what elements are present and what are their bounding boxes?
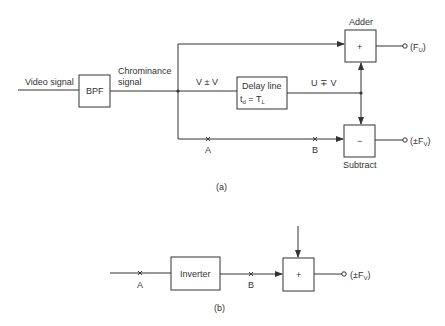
adder-sign: + (357, 42, 362, 52)
subtract-sign: − (357, 136, 362, 146)
bpf-label: BPF (86, 86, 104, 96)
v-pm-v-label: V ± V (196, 77, 218, 87)
caption-b: (b) (214, 303, 225, 313)
delay-time-label: td = TL (240, 94, 265, 105)
diagram-canvas: Video signal BPF Chrominance signal V ± … (0, 0, 445, 326)
b-point-b-label: B (248, 280, 254, 290)
delay-junction-dot (359, 91, 362, 94)
b-point-a-label: A (137, 280, 143, 290)
point-a-label: A (205, 145, 211, 155)
chroma-label-2: signal (118, 77, 142, 87)
b-output-label: (±FV) (350, 270, 370, 281)
pal-delay-line-block-diagram: Video signal BPF Chrominance signal V ± … (0, 0, 445, 326)
b-adder-sign: + (296, 270, 301, 280)
caption-a: (a) (216, 182, 227, 192)
inverter-label: Inverter (180, 269, 211, 279)
split-junction-dot (176, 89, 179, 92)
adder-label: Adder (349, 17, 373, 27)
point-b-label: B (312, 145, 318, 155)
output-fu-label: (FU) (410, 42, 426, 53)
chroma-label-1: Chrominance (118, 66, 172, 76)
subtract-output-terminal (403, 138, 407, 142)
subtract-label: Subtract (343, 160, 377, 170)
delay-line-label: Delay line (242, 81, 282, 91)
video-signal-label: Video signal (25, 77, 74, 87)
u-mp-v-label: U ∓ V (311, 78, 337, 88)
b-output-terminal (342, 272, 346, 276)
adder-output-terminal (403, 44, 407, 48)
output-fv-label: (±FV) (410, 136, 430, 147)
